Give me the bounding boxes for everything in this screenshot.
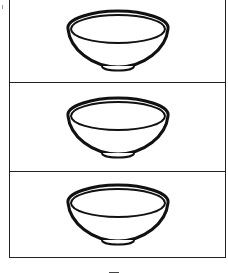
worksheet-frame (9, 0, 226, 258)
panel-2 (10, 83, 225, 172)
page-number-truncated (0, 266, 228, 273)
scan-mark (2, 5, 3, 9)
bowl-icon (62, 181, 174, 247)
bowl-icon (62, 94, 174, 160)
panel-3 (10, 172, 225, 256)
panel-1 (10, 0, 225, 83)
bowl-icon (62, 7, 174, 73)
